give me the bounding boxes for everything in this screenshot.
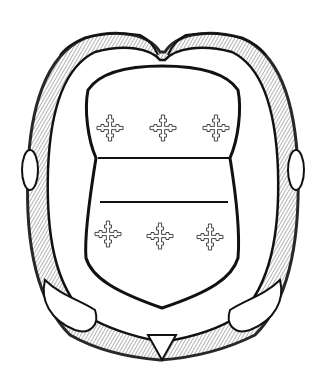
- shield: [86, 66, 240, 308]
- heraldic-engraving: [0, 0, 324, 377]
